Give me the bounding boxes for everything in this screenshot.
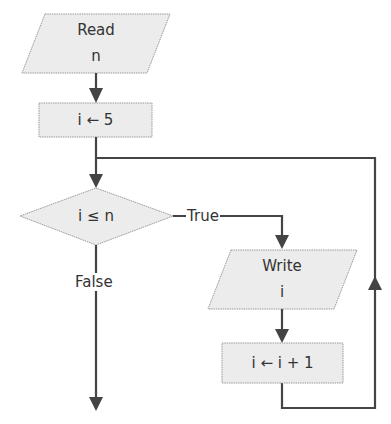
arrowhead-up-icon [368,276,382,290]
write-label: Write i [232,255,332,303]
arrowhead-down-icon [89,88,103,103]
true-label: True [186,207,220,225]
arrowhead-down-icon [89,397,103,411]
false-label: False [74,273,114,291]
read-keyword: Read [46,19,146,41]
read-label: Read n [46,19,146,67]
read-variable: n [46,45,146,67]
decision-label: i ≤ n [46,205,146,227]
write-keyword: Write [232,255,332,277]
arrowhead-down-icon [89,174,103,188]
arrowhead-down-icon [275,235,289,249]
increment-label: i ← i + 1 [222,352,343,374]
init-label: i ← 5 [39,109,152,131]
write-variable: i [232,281,332,303]
arrowhead-down-icon [275,329,289,343]
